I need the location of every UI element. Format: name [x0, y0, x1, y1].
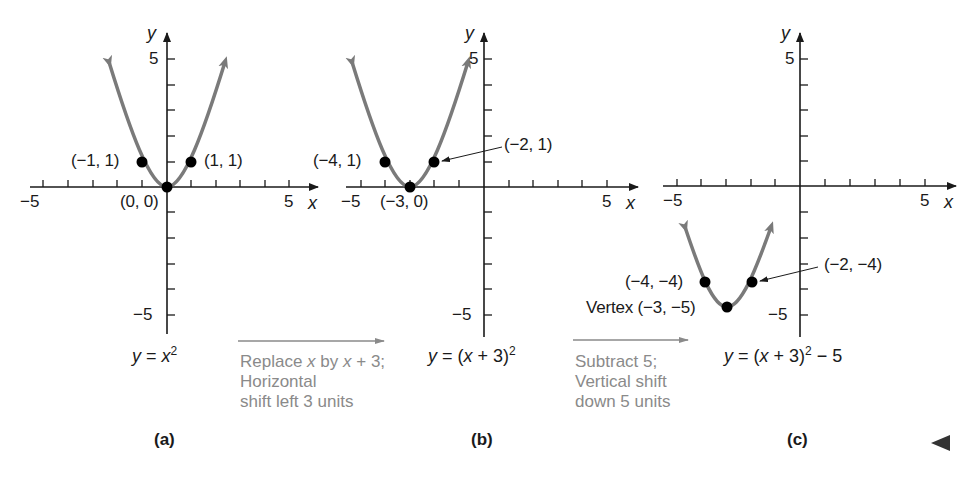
transform-note-1: Replace x by x + 3; Horizontal shift lef…: [240, 352, 385, 412]
panel-b-y-axis-label: y: [465, 24, 474, 42]
previous-triangle-icon[interactable]: [931, 435, 950, 451]
panel-a-y-min-tick: −5: [133, 306, 152, 324]
transform-note-1-line-3: shift left 3 units: [240, 392, 385, 412]
panel-c-parabola: [685, 227, 771, 307]
panel-a-x-axis-label: x: [308, 194, 317, 212]
panel-c-axes: [663, 33, 956, 337]
panel-a-caption: (a): [154, 431, 175, 449]
panel-b-caption: (b): [471, 431, 493, 449]
panel-b-parabola: [352, 62, 468, 187]
panel-c-x-axis-label: x: [944, 193, 953, 211]
panel-b-y-min-tick: −5: [452, 306, 471, 324]
panel-b-axes: [346, 33, 638, 337]
panel-c-equation: y = (x + 3)2 − 5: [724, 346, 842, 366]
panel-c-points: [700, 277, 758, 313]
panel-c-caption: (c): [787, 431, 808, 449]
panel-c-y-max-tick: 5: [785, 50, 794, 68]
panel-a-equation: y = x2: [132, 346, 177, 366]
transform-note-2-line-2: Vertical shift: [575, 372, 670, 392]
panel-b-x-axis-label: x: [626, 194, 635, 212]
panel-a-y-max-tick: 5: [149, 50, 158, 68]
transform-note-1-line-2: Horizontal: [240, 372, 385, 392]
panel-b-point-label-right: (−2, 1): [504, 136, 552, 154]
panel-b-point-label-left: (−4, 1): [313, 152, 361, 170]
transform-note-1-line-1: Replace x by x + 3;: [240, 352, 385, 372]
transform-note-2-line-3: down 5 units: [575, 392, 670, 412]
panel-c-point-label-right: (−2, −4): [824, 256, 882, 274]
panel-c-y-axis-label: y: [781, 24, 790, 42]
panel-b-pointer-line: [442, 147, 502, 161]
panel-c-point-label-left: (−4, −4): [625, 273, 683, 291]
figure-canvas: [0, 0, 970, 479]
panel-a-point-label-right: (1, 1): [204, 152, 242, 170]
panel-a-x-min-tick: −5: [20, 193, 39, 211]
panel-c-y-min-tick: −5: [768, 306, 787, 324]
panel-a-y-axis-label: y: [147, 24, 156, 42]
transform-note-2: Subtract 5; Vertical shift down 5 units: [575, 352, 670, 412]
panel-a-point-label-left: (−1, 1): [71, 152, 119, 170]
panel-c-pointer-line: [760, 267, 818, 281]
panel-b-x-max-tick: 5: [602, 193, 611, 211]
panel-b-x-min-tick: −5: [341, 193, 360, 211]
panel-b-point-label-vertex: (−3, 0): [380, 193, 428, 211]
panel-a-point-label-origin: (0, 0): [120, 193, 158, 211]
panel-a-x-max-tick: 5: [284, 193, 293, 211]
panel-c-x-max-tick: 5: [920, 192, 929, 210]
panel-c-point-label-vertex: Vertex (−3, −5): [586, 299, 695, 317]
panel-b-y-max-tick: 5: [469, 50, 478, 68]
transform-note-2-line-1: Subtract 5;: [575, 352, 670, 372]
panel-b-equation: y = (x + 3)2: [428, 346, 516, 366]
panel-c-x-min-tick: −5: [663, 192, 682, 210]
